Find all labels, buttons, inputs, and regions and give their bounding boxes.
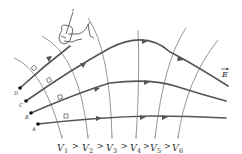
potential-label-v4: V4 bbox=[130, 142, 141, 154]
arrow-icon bbox=[94, 87, 100, 92]
potential-label-v6: V6 bbox=[172, 142, 183, 154]
equipotential-v4 bbox=[136, 30, 139, 138]
point-d bbox=[18, 86, 22, 90]
start-points: D C B A bbox=[13, 86, 40, 132]
field-vector-label: E bbox=[221, 68, 229, 79]
point-label-d: D bbox=[13, 90, 18, 96]
hand-with-pen-icon bbox=[59, 9, 94, 44]
point-label-b: B bbox=[24, 114, 29, 120]
field-line-a bbox=[38, 116, 226, 124]
gt-symbol: > bbox=[164, 142, 171, 151]
right-angle-marker-icon bbox=[57, 94, 62, 99]
equipotential-v1 bbox=[14, 58, 62, 138]
potential-ticks bbox=[62, 135, 178, 139]
point-a bbox=[36, 122, 40, 126]
potential-label-v3: V3 bbox=[106, 142, 117, 154]
right-angle-marker-icon bbox=[64, 114, 68, 118]
point-b bbox=[29, 111, 33, 115]
right-angle-marker-icon bbox=[46, 77, 51, 82]
gt-symbol: > bbox=[97, 142, 104, 151]
field-line-c bbox=[26, 40, 228, 101]
potential-label-v1: V1 bbox=[57, 142, 68, 154]
potential-label-v5: V5 bbox=[150, 142, 161, 154]
gt-symbol: > bbox=[143, 142, 150, 151]
field-diagram: D C B A V1 > V2 > V3 > V4 > V5 > V6 E bbox=[0, 0, 242, 154]
e-label: E bbox=[221, 70, 228, 79]
right-angle-marker-icon bbox=[31, 65, 37, 71]
potential-labels: V1 > V2 > V3 > V4 > V5 > V6 bbox=[57, 142, 183, 154]
arrow-icons bbox=[46, 39, 184, 121]
field-line-b bbox=[31, 81, 226, 113]
potential-label-v2: V2 bbox=[82, 142, 93, 154]
equipotential-v3 bbox=[88, 18, 112, 138]
field-lines bbox=[20, 40, 228, 124]
gt-symbol: > bbox=[121, 142, 128, 151]
gt-symbol: > bbox=[72, 142, 79, 151]
equipotential-lines bbox=[14, 18, 218, 138]
point-label-a: A bbox=[31, 126, 36, 132]
point-label-c: C bbox=[19, 102, 23, 108]
point-c bbox=[24, 99, 28, 103]
